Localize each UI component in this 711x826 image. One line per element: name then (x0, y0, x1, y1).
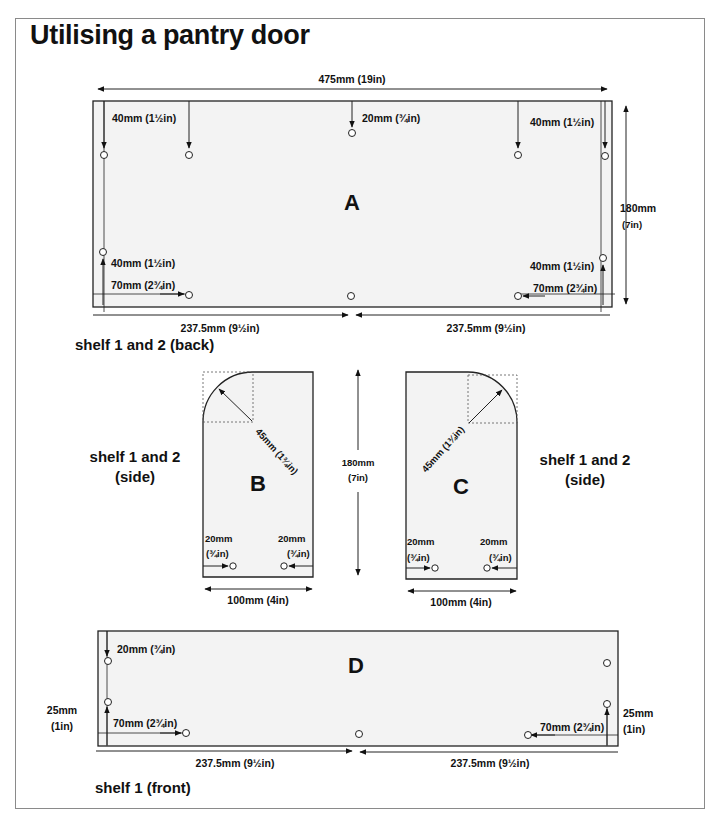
hole (356, 731, 363, 738)
panel-d-right-side-mm: 25mm (623, 707, 653, 719)
panel-a-height-in: (7in) (622, 219, 642, 230)
panel-d-bottom-right-across-label: 70mm (2¾in) (540, 721, 604, 733)
hole (525, 732, 532, 739)
panel-d-left-side-mm: 25mm (47, 704, 77, 716)
hole (186, 292, 193, 299)
panel-a-half-right-label: 237.5mm (9½in) (447, 322, 526, 334)
panel-a-half-left-label: 237.5mm (9½in) (181, 322, 260, 334)
panel-a-bottom-right-up-label: 40mm (1½in) (530, 260, 594, 272)
panel-a-width-label: 475mm (19in) (318, 73, 385, 85)
panel-a-letter: A (344, 190, 360, 215)
hole (604, 660, 611, 667)
bc-height-mm: 180mm (342, 457, 375, 468)
panel-d-top-left-label: 20mm (¾in) (117, 643, 175, 655)
panel-b-caption-line2: (side) (115, 468, 155, 485)
panel-a-caption: shelf 1 and 2 (back) (75, 336, 214, 353)
hole (602, 153, 609, 160)
bc-height-in: (7in) (348, 472, 368, 483)
panel-b-right-hole-in: (¾in) (287, 548, 310, 559)
hole (349, 130, 356, 137)
hole (515, 152, 522, 159)
panel-a-bottom-left-up-label: 40mm (1½in) (111, 257, 175, 269)
hole (230, 563, 236, 569)
panel-a-top-left-label: 40mm (1½in) (112, 112, 176, 124)
hole (101, 152, 108, 159)
panel-d-half-right-label: 237.5mm (9½in) (451, 757, 530, 769)
hole (432, 565, 438, 571)
hole (484, 565, 490, 571)
hole (105, 699, 112, 706)
panel-c-letter: C (453, 474, 469, 499)
panel-c-caption-line1: shelf 1 and 2 (540, 451, 631, 468)
bc-height-dimension: 180mm (7in) (342, 370, 375, 575)
panel-d-left-side-in: (1in) (51, 720, 73, 732)
panel-c-right-hole-mm: 20mm (480, 536, 507, 547)
panel-c-width-label: 100mm (4in) (430, 596, 491, 608)
panel-a-bottom-left-across-label: 70mm (2¾in) (111, 279, 175, 291)
panel-d-letter: D (348, 653, 364, 678)
panel-c-left-hole-in: (¾in) (407, 552, 430, 563)
panel-d-caption: shelf 1 (front) (95, 779, 191, 796)
panel-c-right-hole-in: (¾in) (489, 552, 512, 563)
panel-b-right-hole-mm: 20mm (278, 533, 305, 544)
panel-a-top-right-label: 40mm (1½in) (530, 116, 594, 128)
hole (183, 730, 190, 737)
hole (186, 152, 193, 159)
hole (100, 249, 107, 256)
panel-d-half-left-label: 237.5mm (9½in) (196, 757, 275, 769)
panel-b: 45mm (1¾in) B 20mm (¾in) 20mm (¾in) 100m… (90, 372, 313, 606)
hole (604, 701, 611, 708)
hole (348, 293, 355, 300)
panel-a: 475mm (19in) 180mm (7in) (75, 73, 656, 353)
hole (105, 658, 112, 665)
panel-b-width-label: 100mm (4in) (227, 594, 288, 606)
panel-c: 45mm (1¾in) C 20mm (¾in) 20mm (¾in) 100m… (406, 372, 630, 608)
panel-c-left-hole-mm: 20mm (407, 536, 434, 547)
panel-b-letter: B (250, 471, 266, 496)
panel-b-left-hole-mm: 20mm (205, 533, 232, 544)
panel-b-caption-line1: shelf 1 and 2 (90, 448, 181, 465)
pantry-door-diagram: 475mm (19in) 180mm (7in) (0, 0, 711, 826)
panel-d: D 20mm (¾in) 25mm (1in) 70mm (2¾in) 25mm… (47, 631, 654, 796)
panel-a-bottom-right-across-label: 70mm (2¾in) (533, 282, 597, 294)
panel-d-bottom-left-across-label: 70mm (2¾in) (113, 717, 177, 729)
hole (281, 563, 287, 569)
panel-b-left-hole-in: (¾in) (206, 548, 229, 559)
hole (515, 293, 522, 300)
hole (600, 255, 607, 262)
panel-a-height-mm: 180mm (620, 202, 656, 214)
panel-c-caption-line2: (side) (565, 471, 605, 488)
panel-d-right-side-in: (1in) (623, 723, 645, 735)
panel-a-top-center-label: 20mm (¾in) (362, 112, 420, 124)
